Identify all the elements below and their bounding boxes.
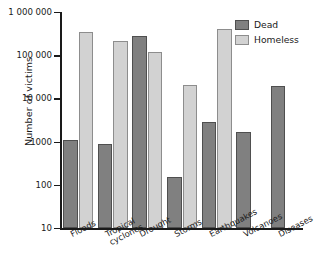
legend-item-dead[interactable]: Dead (235, 18, 313, 31)
legend-swatch-homeless (235, 35, 249, 45)
legend-swatch-dead (235, 20, 249, 30)
y-tick-mark (54, 228, 61, 229)
y-tick-label: 10 (0, 223, 52, 233)
y-tick-label: 1000 (0, 137, 52, 147)
y-tick-mark (54, 98, 61, 99)
legend-label-homeless: Homeless (254, 34, 299, 45)
bar-homeless-earthquakes (217, 29, 232, 228)
bar-dead-diseases (271, 86, 286, 228)
bar-dead-tropical-cyclones (98, 144, 113, 228)
bar-dead-drought (132, 36, 147, 228)
victims-bar-chart: Number of victims 1 000 000100 00010 000… (0, 0, 319, 260)
bar-homeless-drought (148, 52, 163, 228)
y-tick-mark (54, 12, 61, 13)
bar-homeless-floods (79, 32, 94, 228)
y-tick-label: 1 000 000 (0, 7, 52, 17)
legend-label-dead: Dead (254, 19, 278, 30)
bar-homeless-tropical-cyclones (113, 41, 128, 228)
y-tick-mark (54, 142, 61, 143)
y-tick-mark (54, 185, 61, 186)
y-tick-label: 100 (0, 180, 52, 190)
bar-dead-earthquakes (202, 122, 217, 228)
bar-homeless-storms (183, 85, 198, 228)
y-tick-label: 10 000 (0, 93, 52, 103)
bar-dead-floods (63, 140, 78, 228)
y-tick-label: 100 000 (0, 50, 52, 60)
chart-legend: Dead Homeless (232, 15, 316, 49)
y-tick-mark (54, 55, 61, 56)
legend-item-homeless[interactable]: Homeless (235, 33, 313, 46)
